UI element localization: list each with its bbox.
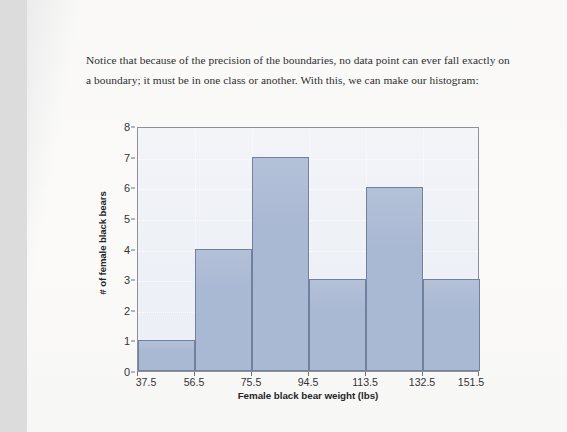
- bar-sheen: [310, 280, 365, 370]
- x-axis-title: Female black bear weight (lbs): [137, 390, 479, 401]
- y-axis-tick-label: 4: [124, 244, 130, 256]
- x-axis-tick-label: 75.5: [241, 376, 262, 388]
- y-axis-tick-mark: [131, 310, 135, 311]
- histogram-bar: [423, 279, 480, 371]
- histogram-bar: [366, 187, 423, 371]
- plot-area: [137, 127, 479, 372]
- y-axis-title: # of female black bears: [97, 191, 108, 294]
- bar-sheen: [196, 250, 251, 371]
- scanned-page: Notice that because of the precision of …: [27, 0, 567, 432]
- y-axis-tick-label: 0: [124, 366, 130, 378]
- histogram-bar: [195, 249, 252, 372]
- histogram-figure: # of female black bears 012345678 37.556…: [89, 112, 509, 412]
- histogram-bar: [138, 340, 195, 371]
- y-axis-tick-mark: [131, 280, 135, 281]
- bar-sheen: [424, 280, 479, 370]
- y-axis-tick-label: 3: [124, 274, 130, 286]
- y-axis-tick-label: 2: [124, 305, 130, 317]
- histogram-bar: [252, 157, 309, 371]
- bar-sheen: [367, 188, 422, 370]
- y-axis-tick-label: 5: [124, 213, 130, 225]
- histogram-bar: [309, 279, 366, 371]
- y-axis-tick-mark: [131, 127, 135, 128]
- y-axis-tick-mark: [131, 188, 135, 189]
- y-axis-tick-label: 7: [124, 152, 130, 164]
- x-axis-tick-label: 56.5: [184, 376, 205, 388]
- y-axis-tick-mark: [131, 341, 135, 342]
- y-axis-tick-mark: [131, 372, 135, 373]
- x-axis-tick-label: 113.5: [352, 376, 378, 388]
- y-axis-tick-label: 1: [124, 335, 130, 347]
- y-axis-tick-label: 8: [124, 121, 130, 133]
- y-axis-tick-labels: 012345678: [111, 112, 135, 374]
- x-axis-tick-label: 94.5: [298, 376, 319, 388]
- y-axis-tick-mark: [131, 157, 135, 158]
- bar-sheen: [139, 341, 194, 370]
- y-axis-tick-mark: [131, 249, 135, 250]
- bar-sheen: [253, 158, 308, 370]
- y-axis-tick-mark: [131, 218, 135, 219]
- x-axis-tick-labels: 37.556.575.594.5113.5132.5151.5: [137, 372, 479, 392]
- body-paragraph: Notice that because of the precision of …: [86, 51, 516, 90]
- y-axis-tick-label: 6: [124, 182, 130, 194]
- x-axis-tick-label: 37.5: [136, 376, 157, 388]
- x-axis-tick-label: 132.5: [409, 376, 436, 388]
- x-axis-tick-label: 151.5: [458, 376, 485, 388]
- y-axis-title-container: # of female black bears: [93, 112, 111, 374]
